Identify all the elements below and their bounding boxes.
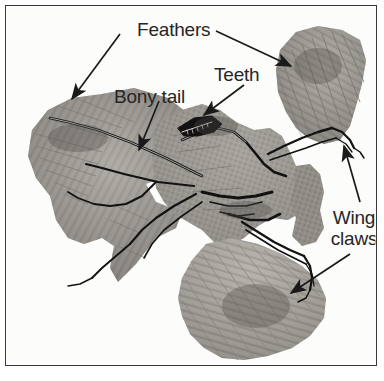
label-bony-tail: Bony tail <box>114 87 185 107</box>
label-wing-claws-line1: Wing <box>323 207 377 228</box>
figure-container: Feathers Bony tail Teeth Wing claws <box>0 0 384 381</box>
label-wing-claws: Wing claws <box>323 207 377 249</box>
fossil-photograph: Feathers Bony tail Teeth Wing claws <box>6 6 377 366</box>
label-wing-claws-line2: claws <box>323 228 377 249</box>
label-teeth: Teeth <box>214 65 259 85</box>
figure-frame: Feathers Bony tail Teeth Wing claws <box>5 5 377 366</box>
fossil-slab-graphic <box>6 6 377 366</box>
label-feathers: Feathers <box>137 20 210 40</box>
